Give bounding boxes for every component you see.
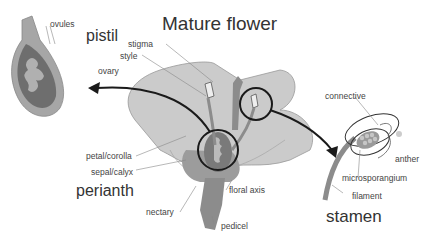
label-pedicel: pedicel — [221, 222, 248, 231]
label-ovary: ovary — [98, 67, 119, 76]
label-ovules: ovules — [50, 20, 75, 29]
diagram-title: Mature flower — [162, 14, 277, 33]
label-petal-corolla: petal/corolla — [86, 152, 132, 161]
section-pistil: pistil — [86, 28, 118, 44]
label-sepal-calyx: sepal/calyx — [91, 168, 133, 177]
label-filament: filament — [352, 192, 382, 201]
pistil-arrowhead — [88, 82, 100, 94]
pistil-detail — [12, 16, 64, 116]
label-nectary: nectary — [146, 208, 174, 217]
label-stigma: stigma — [128, 40, 153, 49]
label-anther: anther — [395, 155, 419, 164]
section-perianth: perianth — [76, 183, 134, 199]
section-stamen: stamen — [326, 208, 382, 225]
label-floral-axis: floral axis — [229, 186, 265, 195]
label-style: style — [120, 52, 137, 61]
stamen-arrowhead — [326, 146, 338, 158]
label-connective: connective — [325, 92, 366, 101]
label-microsporangium: microsporangium — [342, 174, 407, 183]
